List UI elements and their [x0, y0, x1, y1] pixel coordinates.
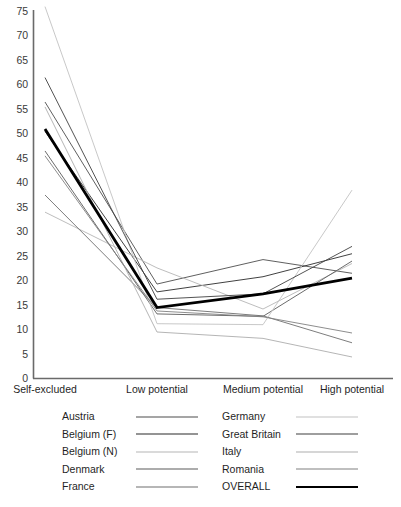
legend-swatch [296, 447, 358, 457]
series-line-italy [45, 107, 352, 357]
y-tick-25: 25 [2, 251, 28, 262]
legend-swatch [136, 412, 198, 422]
series-line-denmark [45, 151, 352, 316]
legend-swatch [296, 429, 358, 439]
legend-item-denmark[interactable]: Denmark [62, 461, 198, 479]
x-tick-self-excluded: Self-excluded [13, 383, 77, 395]
y-tick-45: 45 [2, 153, 28, 164]
plot-svg [0, 0, 401, 392]
y-tick-60: 60 [2, 79, 28, 90]
line-chart: 051015202530354045505560657075 Self-excl… [0, 0, 401, 507]
x-tick-low-potential: Low potential [126, 383, 188, 395]
legend-label: France [62, 481, 132, 492]
legend-column-left: AustriaBelgium (F)Belgium (N)DenmarkFran… [62, 408, 198, 496]
legend-swatch [136, 447, 198, 457]
legend-item-france[interactable]: France [62, 478, 198, 496]
legend-column-right: GermanyGreat BritainItalyRomaniaOVERALL [222, 408, 358, 496]
series-line-belgium-n- [45, 212, 352, 309]
legend-item-italy[interactable]: Italy [222, 443, 358, 461]
legend-item-romania[interactable]: Romania [222, 461, 358, 479]
x-tick-labels: Self-excludedLow potentialMedium potenti… [0, 381, 401, 399]
legend-item-germany[interactable]: Germany [222, 408, 358, 426]
legend-swatch [296, 464, 358, 474]
y-tick-65: 65 [2, 55, 28, 66]
y-tick-55: 55 [2, 104, 28, 115]
legend-swatch [296, 482, 358, 492]
legend-item-overall[interactable]: OVERALL [222, 478, 358, 496]
y-tick-75: 75 [2, 6, 28, 17]
legend-label: Belgium (F) [62, 429, 132, 440]
y-tick-70: 70 [2, 30, 28, 41]
legend-label: Austria [62, 411, 132, 422]
y-tick-50: 50 [2, 128, 28, 139]
y-tick-35: 35 [2, 202, 28, 213]
plot-area: 051015202530354045505560657075 [0, 0, 401, 392]
y-tick-10: 10 [2, 324, 28, 335]
legend-swatch [136, 482, 198, 492]
legend-item-belgium-f-[interactable]: Belgium (F) [62, 426, 198, 444]
legend-label: Denmark [62, 464, 132, 475]
y-tick-40: 40 [2, 177, 28, 188]
legend-label: Germany [222, 411, 292, 422]
chart-legend: AustriaBelgium (F)Belgium (N)DenmarkFran… [0, 408, 401, 507]
y-tick-30: 30 [2, 226, 28, 237]
legend-label: Italy [222, 446, 292, 457]
legend-item-belgium-n-[interactable]: Belgium (N) [62, 443, 198, 461]
y-tick-15: 15 [2, 300, 28, 311]
y-tick-20: 20 [2, 275, 28, 286]
legend-swatch [136, 429, 198, 439]
series-line-austria [45, 102, 352, 284]
series-line-romania [45, 156, 352, 333]
legend-label: Romania [222, 464, 292, 475]
legend-label: OVERALL [222, 481, 292, 492]
legend-swatch [296, 412, 358, 422]
legend-label: Belgium (N) [62, 446, 132, 457]
x-tick-medium-potential: Medium potential [223, 383, 303, 395]
legend-item-austria[interactable]: Austria [62, 408, 198, 426]
series-layer [45, 7, 352, 357]
series-line-belgium-f- [45, 131, 352, 292]
y-tick-5: 5 [2, 349, 28, 360]
legend-item-great-britain[interactable]: Great Britain [222, 426, 358, 444]
series-line-germany [45, 7, 352, 325]
x-tick-high-potential: High potential [320, 383, 384, 395]
legend-swatch [136, 464, 198, 474]
legend-label: Great Britain [222, 429, 292, 440]
